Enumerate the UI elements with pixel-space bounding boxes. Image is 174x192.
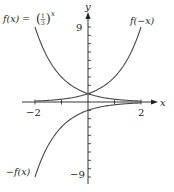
x-tick-label-max: 2 bbox=[138, 107, 144, 118]
svg-text:x: x bbox=[51, 10, 55, 18]
f-of-neg-x-annotation: f(−x) bbox=[129, 15, 155, 26]
svg-text:3: 3 bbox=[41, 19, 45, 26]
x-tick-label-min: −2 bbox=[26, 107, 41, 118]
y-axis-label: y bbox=[84, 1, 91, 12]
svg-text:): ) bbox=[46, 12, 51, 26]
svg-text:(: ( bbox=[36, 12, 41, 26]
f-of-x-annotation: f(x) = ( 1 3 ) x bbox=[2, 10, 55, 26]
neg-f-of-x-annotation: −f(x) bbox=[6, 166, 31, 177]
x-axis-label: x bbox=[160, 97, 166, 108]
y-tick-label-max: 9 bbox=[76, 22, 82, 33]
svg-text:f(x) =: f(x) = bbox=[2, 13, 30, 24]
x-axis-arrow-icon bbox=[151, 100, 158, 105]
y-axis-arrow-icon bbox=[86, 12, 91, 19]
svg-text:1: 1 bbox=[41, 12, 45, 19]
y-tick-label-min: −9 bbox=[70, 169, 85, 180]
y-axis bbox=[86, 12, 92, 184]
exponential-graph: y x 9 −9 −2 2 f(x) = ( 1 3 ) x f(−x) −f(… bbox=[0, 0, 174, 192]
